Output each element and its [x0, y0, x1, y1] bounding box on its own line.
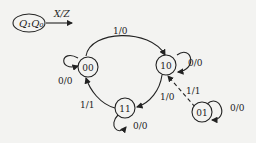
- svg-text:11: 11: [119, 104, 130, 114]
- loop-10-label: 0/0: [188, 58, 203, 68]
- state-11: 11: [115, 98, 135, 118]
- loop-00: [64, 56, 78, 67]
- state-diagram: Q₁Q₀ X/Z 1/0 0/0 0/0 1/0 1/1 0/0 1/1 0/0…: [0, 0, 256, 143]
- edge-01-10-label: 1/1: [186, 86, 200, 96]
- state-10: 10: [156, 55, 176, 75]
- edge-10-11: [137, 75, 162, 107]
- loop-01-label: 0/0: [230, 103, 245, 113]
- edge-00-10-label: 1/0: [113, 26, 128, 36]
- legend-state-label: Q₁Q₀: [19, 18, 43, 29]
- edge-10-11-label: 1/0: [160, 92, 175, 102]
- edge-11-00-label: 1/1: [80, 100, 94, 110]
- loop-11-label: 0/0: [133, 121, 148, 131]
- state-01: 01: [192, 102, 212, 122]
- svg-text:01: 01: [196, 108, 207, 118]
- state-00: 00: [78, 57, 98, 77]
- svg-text:00: 00: [82, 63, 94, 73]
- loop-00-label: 0/0: [58, 76, 73, 86]
- svg-text:10: 10: [160, 61, 172, 71]
- legend: Q₁Q₀ X/Z: [13, 9, 72, 32]
- edge-00-10: [86, 36, 165, 56]
- legend-arrow-label: X/Z: [53, 9, 70, 19]
